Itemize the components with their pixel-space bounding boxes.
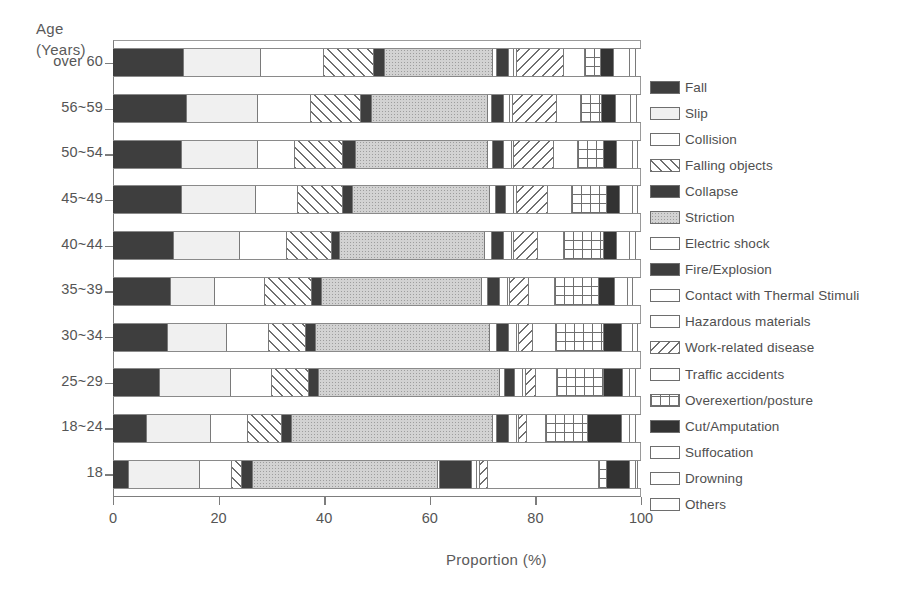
- legend-swatch-icon: [650, 420, 680, 433]
- bar-segment: [636, 369, 641, 396]
- bar-segment: [261, 49, 324, 76]
- bar-segment: [309, 369, 319, 396]
- y-axis-tick-mark: [105, 246, 113, 247]
- bar-segment: [554, 141, 578, 168]
- legend-item-label: Striction: [685, 210, 735, 225]
- bar-segment: [113, 369, 160, 396]
- bar-segment: [504, 232, 512, 259]
- bar-row: [113, 94, 641, 123]
- bar-segment: [488, 278, 500, 305]
- bar-segment: [623, 369, 631, 396]
- bar-segment: [242, 461, 253, 488]
- bar-segment: [557, 95, 581, 122]
- legend-swatch-icon: [650, 159, 680, 172]
- y-axis-tick-mark: [105, 428, 113, 429]
- legend-swatch-icon: [650, 394, 680, 407]
- x-axis-tick-label: 20: [199, 510, 239, 526]
- bar-segment: [353, 186, 490, 213]
- legend-swatch-icon: [650, 81, 680, 94]
- bar-segment: [343, 141, 356, 168]
- bar-segment: [492, 232, 504, 259]
- legend-swatch-icon: [650, 289, 680, 302]
- legend-item-label: Others: [685, 497, 726, 512]
- bar-row: [113, 185, 641, 214]
- y-axis-title-line1: Age: [36, 18, 86, 39]
- bar-segment: [306, 324, 317, 351]
- bar-row: [113, 231, 641, 260]
- legend-swatch-icon: [650, 133, 680, 146]
- bar-segment: [607, 186, 620, 213]
- bar-segment: [129, 461, 200, 488]
- bar-segment: [555, 278, 599, 305]
- bar-segment: [526, 369, 536, 396]
- bar-segment: [599, 461, 607, 488]
- legend-swatch-icon: [650, 107, 680, 120]
- x-axis-tick-label: 0: [93, 510, 133, 526]
- bar-segment: [374, 49, 385, 76]
- bar-segment: [636, 415, 641, 442]
- legend-swatch-icon: [650, 185, 680, 198]
- bar-row: [113, 48, 641, 77]
- bar-segment: [492, 95, 504, 122]
- y-axis-tick-label: over 60: [19, 53, 103, 69]
- bar-segment: [265, 278, 312, 305]
- bar-segment: [517, 186, 549, 213]
- y-axis-tick-label: 50~54: [19, 144, 103, 160]
- bar-segment: [184, 49, 261, 76]
- bar-segment: [340, 232, 485, 259]
- legend-item-label: Work-related disease: [685, 340, 814, 355]
- legend-swatch-icon: [650, 446, 680, 459]
- x-axis-tick-mark: [430, 497, 431, 505]
- legend-item-label: Fall: [685, 80, 707, 95]
- bar-segment: [536, 369, 557, 396]
- bar-segment: [604, 369, 622, 396]
- bar-segment: [514, 141, 554, 168]
- bar-segment: [113, 49, 184, 76]
- bar-segment: [509, 324, 517, 351]
- bar-segment: [604, 141, 617, 168]
- bar-segment: [616, 95, 632, 122]
- y-axis-tick-label: 40~44: [19, 236, 103, 252]
- y-axis-tick-label: 56~59: [19, 99, 103, 115]
- bar-segment: [509, 415, 517, 442]
- bar-segment: [113, 324, 168, 351]
- bar-segment: [113, 232, 174, 259]
- bar-segment: [497, 49, 509, 76]
- bar-segment: [272, 369, 309, 396]
- bar-segment: [258, 95, 311, 122]
- bar-segment: [637, 95, 641, 122]
- legend-item-label: Hazardous materials: [685, 314, 811, 329]
- bar-segment: [182, 141, 259, 168]
- legend-item: Fire/Explosion: [650, 257, 908, 283]
- bar-segment: [343, 186, 354, 213]
- legend-item: Fall: [650, 74, 908, 100]
- bar-segment: [311, 95, 361, 122]
- bar-segment: [617, 141, 633, 168]
- legend-swatch-icon: [650, 211, 680, 224]
- bar-segment: [601, 49, 614, 76]
- bar-segment: [607, 461, 631, 488]
- bar-segment: [636, 232, 641, 259]
- bar-segment: [514, 232, 538, 259]
- legend-item-label: Electric shock: [685, 236, 770, 251]
- legend-item: Suffocation: [650, 439, 908, 465]
- bar-segment: [506, 186, 514, 213]
- y-axis-tick-label: 25~29: [19, 373, 103, 389]
- bar-segment: [258, 141, 295, 168]
- bar-segment: [548, 186, 572, 213]
- bar-segment: [480, 461, 488, 488]
- bar-segment: [324, 49, 374, 76]
- stacked-bar-chart: Age (Years) over 6056~5950~5445~4940~443…: [0, 0, 910, 592]
- legend-item-label: Drowning: [685, 471, 743, 486]
- y-axis-tick-label: 45~49: [19, 190, 103, 206]
- bar-segment: [588, 415, 622, 442]
- bar-segment: [604, 232, 617, 259]
- bar-segment: [493, 141, 504, 168]
- bar-segment: [599, 278, 615, 305]
- bar-row: [113, 140, 641, 169]
- bar-segment: [316, 324, 490, 351]
- bar-segment: [319, 369, 499, 396]
- y-axis-tick-mark: [105, 63, 113, 64]
- bar-segment: [615, 278, 628, 305]
- bar-segment: [361, 95, 372, 122]
